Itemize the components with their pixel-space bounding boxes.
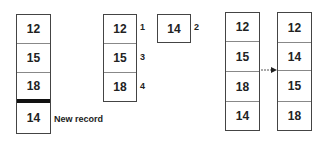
record-cell: 14 xyxy=(158,15,190,42)
record-cell: 18 xyxy=(278,102,311,130)
new-record-cell: 14 xyxy=(17,103,50,133)
order-label: 3 xyxy=(140,52,145,62)
single-record-box: 14 xyxy=(157,14,191,43)
record-cell: 15 xyxy=(17,44,50,73)
step1-column: 12 15 18 14 xyxy=(16,14,51,134)
record-cell: 15 xyxy=(278,71,311,102)
new-record-label: New record xyxy=(54,114,103,124)
record-cell: 12 xyxy=(104,15,136,44)
record-cell: 12 xyxy=(226,13,259,42)
record-cell: 12 xyxy=(278,13,311,43)
order-label: 4 xyxy=(140,81,145,91)
record-cell: 18 xyxy=(226,72,259,102)
record-cell: 18 xyxy=(104,73,136,101)
order-label: 2 xyxy=(194,22,199,32)
step3-before-column: 12 15 18 14 xyxy=(225,12,260,131)
record-cell: 14 xyxy=(226,102,259,130)
record-cell: 14 xyxy=(278,43,311,71)
step2-column: 12 15 18 xyxy=(103,14,137,102)
record-cell: 18 xyxy=(17,73,50,103)
step3-after-column: 12 14 15 18 xyxy=(277,12,312,131)
record-cell: 15 xyxy=(104,44,136,73)
arrow-right-icon xyxy=(261,66,278,74)
record-cell: 15 xyxy=(226,42,259,72)
order-label: 1 xyxy=(140,22,145,32)
record-cell: 12 xyxy=(17,15,50,44)
